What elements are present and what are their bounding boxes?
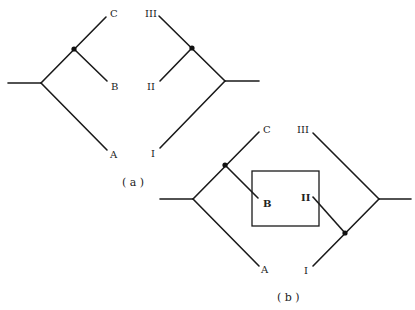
node-dot [189,45,194,50]
tree-b-right [313,133,411,266]
node-dot [222,162,227,167]
label-a-a: A [109,149,118,160]
diagram-svg: C B A III II I ( a ) C B A III II I ( b … [0,0,415,310]
branch-b [225,165,258,198]
node-dot [342,230,347,235]
label-a-b: B [111,81,118,92]
caption-b: ( b ) [277,291,300,304]
caption-a: ( a ) [122,176,144,189]
node-dot [71,46,76,51]
label-a-i: I [151,148,155,159]
tree-a-right [159,16,259,148]
label-b-a: A [260,264,269,275]
tanglegram-figure: C B A III II I ( a ) C B A III II I ( b … [0,0,415,310]
branch-b [74,49,107,81]
tree-b-left [160,132,259,266]
tree-a-left [8,17,107,150]
label-a-iii: III [145,8,157,19]
label-b-c: C [263,124,271,135]
branch-i [160,81,225,148]
branch-a [193,199,259,266]
label-b-iii: III [297,124,309,135]
label-a-ii: II [147,81,155,92]
branch-a [41,83,107,150]
branch-ii [160,48,192,81]
label-b-b: B [263,198,271,209]
branch-ii [313,197,345,233]
label-a-c: C [110,8,118,19]
label-b-i: I [304,265,308,276]
branch-iii [313,133,379,199]
label-b-ii: II [301,192,311,203]
